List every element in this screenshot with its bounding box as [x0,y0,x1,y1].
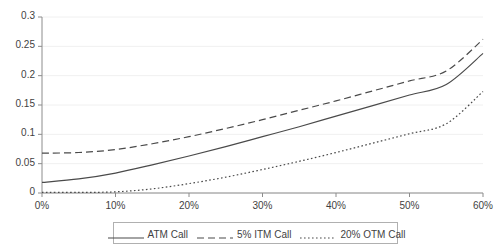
series-line [42,39,483,153]
x-tick-label: 60% [463,200,498,211]
y-tick-label: 0.25 [1,39,35,50]
y-tick-label: 0.3 [1,10,35,21]
x-tick-label: 20% [169,200,209,211]
legend-label: 5% ITM Call [237,229,291,240]
y-tick-label: 0.05 [1,157,35,168]
legend-label: ATM Call [148,229,188,240]
y-tick-label: 0.1 [1,127,35,138]
x-tick-label: 0% [22,200,62,211]
y-tick-label: 0 [1,186,35,197]
y-tick-label: 0.2 [1,69,35,80]
x-tick-label: 40% [316,200,356,211]
chart-legend: ATM Call5% ITM Call20% OTM Call [113,222,398,244]
legend-line-sample-solid [108,229,144,239]
x-tick-label: 50% [390,200,430,211]
legend-item: 5% ITM Call [197,229,291,240]
y-tick-label: 0.15 [1,98,35,109]
legend-label: 20% OTM Call [340,229,405,240]
legend-line-sample-dotted [300,229,336,239]
legend-item: 20% OTM Call [300,229,405,240]
series-line [42,53,483,182]
x-tick-label: 10% [96,200,136,211]
x-tick-label: 30% [243,200,283,211]
legend-item: ATM Call [108,229,188,240]
legend-line-sample-dashed [197,229,233,239]
series-line [42,92,483,193]
